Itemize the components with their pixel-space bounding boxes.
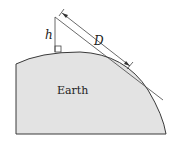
diagram-graphic <box>0 0 177 144</box>
earth-label: Earth <box>57 84 88 97</box>
earth-shape <box>16 52 166 134</box>
distance-label: D <box>94 34 104 48</box>
height-label: h <box>45 28 53 42</box>
horizon-distance-diagram: h D Earth <box>0 0 177 144</box>
right-angle-marker <box>55 46 61 52</box>
